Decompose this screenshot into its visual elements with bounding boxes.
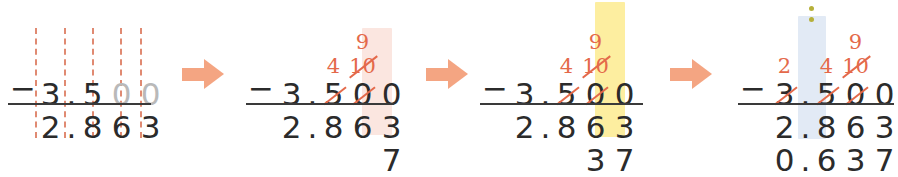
subtrahend-digit: 6	[107, 111, 136, 144]
subtraction-rule	[8, 103, 151, 105]
subtrahend-digit: 2	[277, 111, 306, 144]
minuend-digit-struck: 5	[557, 78, 577, 111]
minuend-decimal-point: .	[539, 78, 552, 111]
difference-digit	[348, 144, 377, 177]
dots-marker	[809, 6, 814, 28]
step-2-panel: − 3 2 . . 4 5 8	[234, 0, 420, 147]
regroup-mid: 2	[770, 54, 799, 78]
regroup-mid	[136, 54, 165, 78]
regroup-mid	[870, 54, 898, 78]
regroup-top: 9	[581, 30, 610, 54]
subtrahend-digit: 6	[348, 111, 377, 144]
minuend-digit: 0	[136, 78, 165, 111]
subtrahend-digit: 2	[510, 111, 539, 144]
step-4-panel: − 2 3 2 0 . . . 4 5 8 6	[722, 0, 898, 147]
dot	[809, 6, 814, 11]
difference-digit	[107, 144, 136, 177]
difference-digit	[36, 144, 65, 177]
subtrahend-digit: 3	[377, 111, 406, 144]
subtrahend-digit: 2	[36, 111, 65, 144]
regroup-mid	[799, 54, 812, 78]
minuend-digit: 0	[870, 78, 898, 111]
subtrahend-digit: 2	[770, 111, 799, 144]
difference-digit: 3	[841, 144, 870, 177]
right-arrow-icon	[182, 59, 228, 89]
regroup-top	[377, 30, 406, 54]
minuend-decimal-point: .	[799, 78, 812, 111]
minuend-digit: 3	[510, 78, 539, 111]
subtrahend-decimal-point: .	[799, 111, 812, 144]
step-1-panel: − 3 2 . . 5 8	[0, 0, 176, 147]
regroup-top: 9	[841, 30, 870, 54]
minuend-digit: 0	[107, 78, 136, 111]
minuend-decimal-point: .	[65, 78, 78, 111]
minuend-digit-struck: 5	[817, 78, 837, 111]
regroup-mid	[107, 54, 136, 78]
minuend-digit-struck: 5	[324, 78, 344, 111]
minus-sign: −	[248, 72, 274, 105]
minus-sign: −	[482, 72, 508, 105]
regroup-top	[770, 30, 799, 54]
minuend-decimal-point: .	[306, 78, 319, 111]
regroup-mid	[277, 54, 306, 78]
difference-digit	[78, 144, 107, 177]
minuend-digit-struck: 0	[586, 78, 606, 111]
subtraction-rule	[738, 103, 894, 105]
difference-digit: 3	[581, 144, 610, 177]
regroup-mid: 4	[319, 54, 348, 78]
regroup-mid: 4	[552, 54, 581, 78]
difference-digit	[277, 144, 306, 177]
regroup-top	[78, 30, 107, 54]
dot	[809, 17, 814, 22]
subtrahend-digit: 3	[136, 111, 165, 144]
regroup-top	[65, 30, 78, 54]
difference-digit	[510, 144, 539, 177]
right-arrow-icon	[426, 59, 472, 89]
difference-digit	[319, 144, 348, 177]
step-3-panel: − 3 2 . . 4 5 8	[478, 0, 664, 147]
regroup-mid	[78, 54, 107, 78]
minuend-digit: 0	[610, 78, 639, 111]
difference-digit: 7	[870, 144, 898, 177]
difference-digit: 0	[770, 144, 799, 177]
difference-digit	[552, 144, 581, 177]
subtrahend-digit: 3	[610, 111, 639, 144]
difference-digit	[136, 144, 165, 177]
regroup-mid	[36, 54, 65, 78]
arrow-head	[692, 59, 712, 89]
difference-digit: 6	[812, 144, 841, 177]
regroup-top	[812, 30, 841, 54]
minuend-digit: 3	[36, 78, 65, 111]
minuend-digit: 0	[377, 78, 406, 111]
regroup-top	[610, 30, 639, 54]
arrow-head	[448, 59, 468, 89]
regroup-top	[319, 30, 348, 54]
difference-decimal-point	[306, 144, 319, 177]
subtrahend-digit: 6	[581, 111, 610, 144]
subtrahend-decimal-point: .	[306, 111, 319, 144]
subtrahend-decimal-point: .	[539, 111, 552, 144]
regroup-top	[136, 30, 165, 54]
minuend-digit: 5	[78, 78, 107, 111]
regroup-mid-struck: 10	[349, 54, 376, 78]
regroup-mid: 4	[812, 54, 841, 78]
minus-sign: −	[10, 72, 36, 105]
regroup-top	[539, 30, 552, 54]
subtrahend-digit: 8	[78, 111, 107, 144]
difference-digit: 7	[377, 144, 406, 177]
regroup-mid-struck: 10	[842, 54, 869, 78]
minuend-digit: 3	[277, 78, 306, 111]
subtrahend-digit: 6	[841, 111, 870, 144]
difference-decimal-point	[65, 144, 78, 177]
difference-decimal-point: .	[799, 144, 812, 177]
regroup-top	[799, 30, 812, 54]
regroup-top	[277, 30, 306, 54]
regroup-top	[107, 30, 136, 54]
subtrahend-digit: 3	[870, 111, 898, 144]
regroup-mid	[510, 54, 539, 78]
difference-decimal-point	[539, 144, 552, 177]
subtrahend-digit: 8	[319, 111, 348, 144]
regroup-top	[870, 30, 898, 54]
subtraction-rule	[246, 103, 394, 105]
